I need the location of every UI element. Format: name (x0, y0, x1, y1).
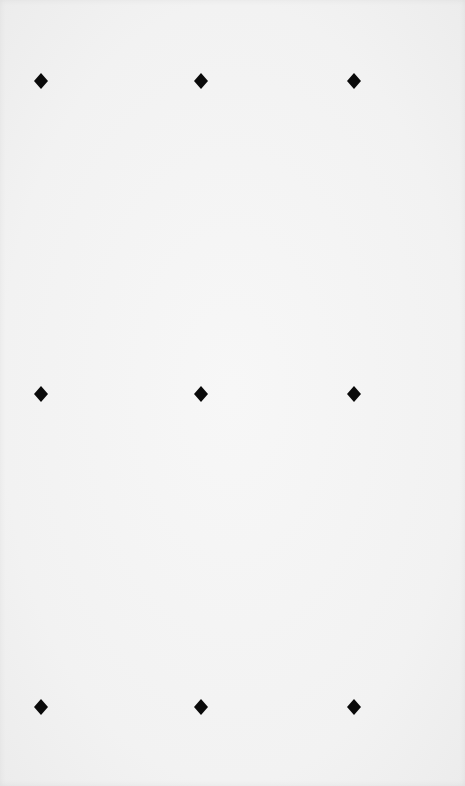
diamond-icon (347, 73, 361, 89)
diamond-icon (194, 386, 208, 402)
diamond-icon (347, 386, 361, 402)
diamond-icon (34, 386, 48, 402)
paper-background (0, 0, 465, 786)
diamond-icon (194, 73, 208, 89)
diamond-icon (347, 699, 361, 715)
diamond-icon (34, 699, 48, 715)
diamond-icon (194, 699, 208, 715)
diamond-icon (34, 73, 48, 89)
